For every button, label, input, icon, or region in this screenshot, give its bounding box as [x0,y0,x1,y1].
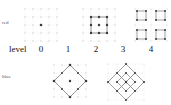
level-tick-0: 0 [35,44,47,54]
center-node [40,24,43,27]
grid-dots [134,8,167,41]
row-label-blue: blue [2,74,11,79]
panel-red-level-2 [80,6,118,44]
panel-red-level-4 [132,6,170,44]
row-label-red: red [2,20,9,25]
diamond-nodes [53,64,88,99]
panel-red-level-2-svg [80,6,118,44]
level-tick-2: 2 [90,44,102,54]
level-tick-3: 3 [117,44,129,54]
panel-red-level-4-svg [132,6,170,44]
panel-blue-level-1-svg [51,61,89,101]
axis-label-level: level [9,44,27,54]
level-tick-4: 4 [145,44,157,54]
panel-blue-level-1 [51,61,89,101]
panel-red-level-0-svg [22,6,60,44]
panel-blue-level-3-svg [104,60,148,104]
lattice-figure: red blue [0,0,171,105]
panel-blue-level-3 [104,60,148,104]
panel-red-level-0 [22,6,60,44]
level-tick-1: 1 [62,44,74,54]
